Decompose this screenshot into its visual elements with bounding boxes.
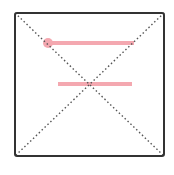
wireframe-diagram: [0, 0, 174, 175]
highlight-layer: [43, 38, 134, 84]
